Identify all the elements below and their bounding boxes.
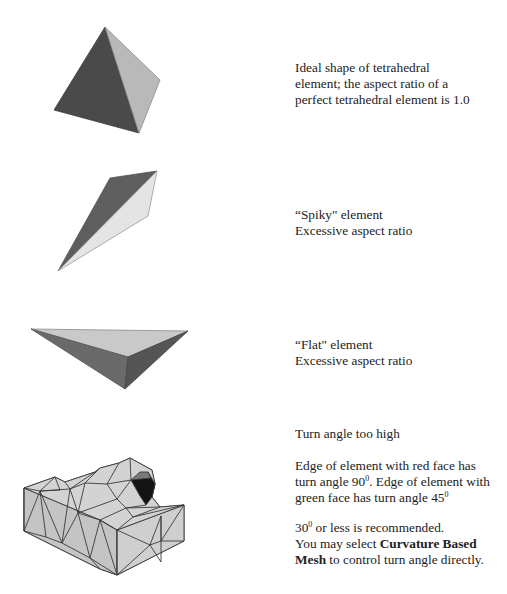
turn-angle-paragraph-1: Edge of element with red face has turn a… [295, 458, 490, 506]
para1-line-2: turn angle 900. Edge of element with [295, 474, 490, 490]
ideal-line-3: perfect tetrahedral element is 1.0 [295, 92, 470, 108]
ideal-description: Ideal shape of tetrahedral element; the … [295, 60, 470, 108]
ideal-line-2: element; the aspect ratio of a [295, 76, 470, 92]
para1-line-3: green face has turn angle 450 [295, 490, 490, 506]
curvature-based-mesh-term-cont: Mesh [295, 552, 326, 567]
ideal-line-1: Ideal shape of tetrahedral [295, 60, 470, 76]
mesh-block-figure [24, 458, 184, 575]
para1-line-1: Edge of element with red face has [295, 458, 490, 474]
turn-angle-paragraph-2: 300 or less is recommended. You may sele… [295, 520, 484, 568]
para2-line-3: Mesh to control turn angle directly. [295, 552, 484, 568]
flat-description: “Flat" element Excessive aspect ratio [295, 337, 412, 369]
turn-angle-heading-text: Turn angle too high [295, 426, 400, 442]
spiky-line-1: “Spiky" element [295, 207, 412, 223]
ideal-tetrahedron-figure [54, 27, 160, 133]
flat-line-1: “Flat" element [295, 337, 412, 353]
spiky-description: “Spiky" element Excessive aspect ratio [295, 207, 412, 239]
para2-line-1: 300 or less is recommended. [295, 520, 484, 536]
flat-tetrahedron-figure [31, 329, 188, 389]
flat-line-2: Excessive aspect ratio [295, 353, 412, 369]
spiky-tetrahedron-figure [58, 171, 157, 271]
spiky-line-2: Excessive aspect ratio [295, 223, 412, 239]
curvature-based-mesh-term: Curvature Based [380, 536, 477, 551]
turn-angle-heading: Turn angle too high [295, 426, 400, 442]
para2-line-2: You may select Curvature Based [295, 536, 484, 552]
